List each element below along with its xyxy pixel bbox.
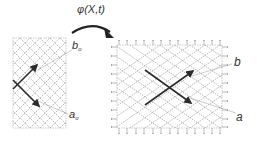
mapping-label: φ(X,t)	[77, 3, 105, 15]
leader-a	[190, 98, 236, 113]
label-a0: ao	[69, 108, 78, 121]
reference-lattice	[0, 38, 180, 128]
label-b0: bo	[72, 39, 81, 52]
label-b: b	[234, 55, 241, 69]
leader-a0	[38, 101, 68, 114]
reference-lattice-border	[13, 38, 66, 128]
deformed-vector-a-icon	[145, 70, 191, 103]
label-a0-sub: o	[75, 115, 78, 121]
label-b0-sub: o	[78, 46, 81, 52]
deformed-lattice-border	[117, 45, 222, 128]
deformation-diagram	[0, 0, 257, 144]
mapping-arrow-icon	[72, 26, 114, 38]
label-a: a	[236, 110, 243, 124]
reference-vector-b-icon	[13, 65, 37, 89]
